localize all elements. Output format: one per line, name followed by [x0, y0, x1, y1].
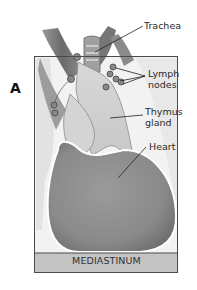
mediastinum-diagram: A Trachea Lymph nodes Thymus gland Heart… — [0, 0, 197, 290]
label-lymph-nodes-2: nodes — [148, 79, 177, 90]
mediastinum-label: MEDIASTINUM — [34, 255, 179, 266]
label-trachea: Trachea — [144, 20, 181, 31]
label-lymph-nodes-1: Lymph — [148, 68, 179, 79]
label-thymus-1: Thymus — [145, 106, 183, 117]
label-heart: Heart — [149, 141, 175, 152]
panel-letter: A — [10, 80, 21, 96]
label-thymus-2: gland — [145, 117, 172, 128]
